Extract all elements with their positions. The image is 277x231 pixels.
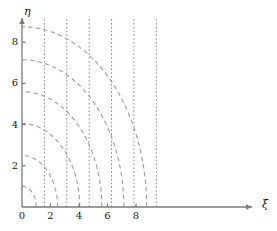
- y-axis-label: η: [24, 5, 31, 18]
- x-axis-label: ξ: [262, 198, 268, 211]
- circle-arc-3: [22, 124, 80, 207]
- circle-arc-1: [22, 186, 36, 207]
- y-tick-label-8: 8: [6, 36, 18, 47]
- circle-arc-4: [22, 92, 102, 207]
- x-tick-label-6: 6: [98, 210, 118, 221]
- axes-group: [19, 18, 252, 210]
- tick-marks-group: [22, 42, 136, 207]
- asymptote-lines-group: [44, 18, 156, 207]
- x-tick-label-4: 4: [69, 210, 89, 221]
- circle-arc-6: [22, 27, 147, 207]
- x-tick-label-8: 8: [126, 210, 146, 221]
- finite-square-well-plot: ξ η 02468 2468: [0, 0, 277, 231]
- x-tick-label-2: 2: [41, 210, 61, 221]
- x-tick-label-0: 0: [12, 210, 32, 221]
- circle-arcs-group: [22, 27, 147, 207]
- y-tick-label-2: 2: [6, 160, 18, 171]
- x-axis-arrowhead: [246, 204, 252, 210]
- circle-arc-2: [22, 156, 58, 208]
- y-tick-label-6: 6: [6, 77, 18, 88]
- plot-canvas: [0, 0, 277, 231]
- y-tick-label-4: 4: [6, 119, 18, 130]
- circle-arc-5: [22, 60, 124, 207]
- y-axis-arrowhead: [19, 18, 25, 24]
